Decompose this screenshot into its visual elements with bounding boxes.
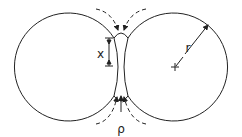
sintering-diagram: x ρ r [0,0,242,137]
diffusion-path-bottom-left [96,97,117,124]
neck-right [124,38,128,96]
diffusion-path-top-right [124,9,146,30]
diffusion-path-bottom-right [124,97,146,124]
neck-left [114,38,118,96]
label-r: r [186,41,191,55]
label-x: x [97,47,104,61]
left-sphere [14,13,114,121]
neck-top [114,33,128,38]
diffusion-path-top-left [96,9,118,30]
label-rho: ρ [117,122,125,136]
